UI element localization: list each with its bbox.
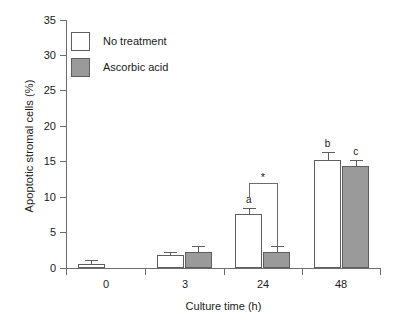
x-tick-sep-1 [145, 269, 146, 275]
bar-24h-no-treatment [235, 214, 262, 268]
y-tick-label-15: 15 [16, 156, 56, 167]
bar-24h-ascorbic-acid [263, 252, 290, 268]
bar-annotation-b: b [315, 139, 341, 149]
y-tick-label-0: 0 [16, 263, 56, 274]
y-tick-label-5: 5 [16, 227, 56, 238]
error-bar-cap [85, 260, 98, 261]
bar-chart-figure: Apoptotic stromal cells (%) 35 30 25 20 … [0, 0, 393, 324]
error-bar-cap [164, 252, 177, 253]
error-bar-cap [192, 246, 205, 247]
y-tick-label-35: 35 [16, 15, 56, 26]
error-bar-cap [271, 246, 284, 247]
error-bar-cap [322, 152, 335, 153]
bar-48h-no-treatment [314, 160, 341, 268]
y-tick-label-30: 30 [16, 50, 56, 61]
bar-3h-ascorbic-acid [185, 252, 212, 268]
significance-asterisk: * [253, 172, 273, 183]
bar-48h-ascorbic-acid [342, 166, 369, 268]
x-tick-label-48: 48 [311, 279, 371, 290]
x-axis-title: Culture time (h) [66, 300, 381, 312]
x-tick-label-0: 0 [76, 279, 136, 290]
x-tick-label-3: 3 [155, 279, 215, 290]
x-tick-label-24: 24 [233, 279, 293, 290]
significance-bracket-right [277, 183, 278, 246]
y-tick-label-25: 25 [16, 85, 56, 96]
x-tick-start [66, 269, 67, 275]
x-tick-end [380, 269, 381, 275]
bar-3h-no-treatment [157, 255, 184, 268]
error-bar-cap [350, 160, 363, 161]
x-tick-sep-3 [302, 269, 303, 275]
error-bar-stem [328, 152, 329, 161]
significance-bracket-left [249, 183, 250, 197]
plot-area: abc* [66, 20, 381, 268]
y-tick-label-10: 10 [16, 192, 56, 203]
significance-bracket-top [249, 183, 277, 184]
error-bar-cap [243, 208, 256, 209]
x-tick-sep-2 [224, 269, 225, 275]
bar-annotation-c: c [343, 147, 369, 157]
y-tick-label-20: 20 [16, 121, 56, 132]
